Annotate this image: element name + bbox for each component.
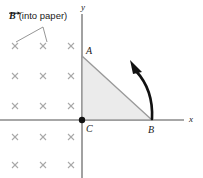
y-axis-label: y (81, 3, 85, 12)
vertex-label-c: C (86, 124, 93, 134)
caption-text: (into paper) (19, 11, 68, 21)
vertex-label-a: A (86, 46, 92, 56)
field-marker-x (40, 162, 46, 168)
figure-canvas (0, 0, 203, 178)
b-vector-symbol: B (9, 11, 17, 21)
field-marker-x (12, 162, 18, 168)
triangle-abc (82, 56, 152, 120)
field-marker-x (40, 103, 46, 109)
magnetic-field-marker-grid (12, 43, 74, 168)
field-marker-x (68, 73, 74, 79)
field-marker-x (40, 43, 46, 49)
b-symbol-text: B (9, 10, 16, 21)
field-marker-x (12, 43, 18, 49)
field-marker-x (68, 43, 74, 49)
field-marker-x (12, 103, 18, 109)
rotation-arrow-head (130, 60, 142, 74)
physics-figure-current-loop-in-magnetic-field: B (into paper) y x A B C (0, 0, 203, 178)
vertex-label-b: B (148, 125, 154, 135)
caption-leader-lines (16, 27, 47, 42)
field-marker-x (12, 134, 18, 140)
x-axis-label: x (189, 115, 193, 124)
field-marker-x (40, 73, 46, 79)
field-marker-x (68, 162, 74, 168)
origin-dot (79, 117, 85, 123)
field-marker-x (12, 73, 18, 79)
magnetic-field-caption: B (into paper) (9, 11, 67, 21)
field-marker-x (68, 103, 74, 109)
leader-line-right (43, 27, 47, 42)
field-marker-x (40, 134, 46, 140)
leader-line-left (16, 27, 43, 42)
field-marker-x (68, 134, 74, 140)
